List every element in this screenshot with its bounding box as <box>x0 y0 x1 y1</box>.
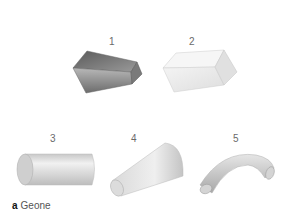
geon-2-number: 2 <box>189 36 195 47</box>
geon-3-cylinder <box>17 154 95 185</box>
geon-5-number: 5 <box>233 133 239 144</box>
geon-2-block <box>163 50 237 92</box>
geon-4-cone <box>108 143 183 198</box>
geon-1-number: 1 <box>109 36 115 47</box>
geon-1-tapered-prism <box>73 51 142 93</box>
figure-caption: aGeone <box>12 200 51 211</box>
caption-letter: a <box>12 200 18 211</box>
caption-text: Geone <box>21 200 51 211</box>
geon-5-curved-tube <box>199 154 276 195</box>
geon-4-number: 4 <box>131 133 137 144</box>
geon-3-number: 3 <box>50 133 56 144</box>
geon-figure <box>0 0 292 220</box>
